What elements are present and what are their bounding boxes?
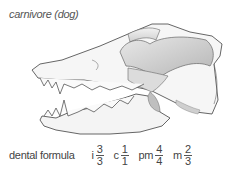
dental-formula-label: dental formula <box>9 149 75 161</box>
incisors-term: i 33 <box>92 144 104 167</box>
dental-formula: dental formula i 33 c 11 pm 44 m 23 <box>9 140 202 170</box>
molars-term: m 23 <box>173 144 192 167</box>
canines-term: c 11 <box>114 144 129 167</box>
premolars-term: pm 44 <box>139 144 164 167</box>
